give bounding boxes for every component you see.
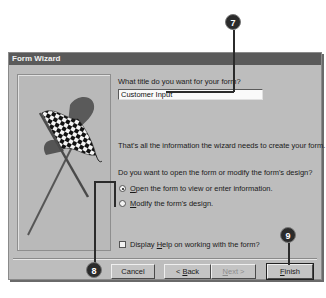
- open-prompt-label: Do you want to open the form or modify t…: [118, 168, 312, 177]
- form-wizard-dialog: Form Wizard What title do you want for y…: [8, 52, 322, 280]
- next-button[interactable]: Next >: [211, 264, 256, 279]
- callout-9-leader: [288, 243, 290, 265]
- finish-button[interactable]: Finish: [267, 264, 313, 279]
- callout-8-bracket: [114, 181, 116, 207]
- title-prompt-label: What title do you want for your form?: [118, 77, 241, 86]
- checkered-flag-icon: [18, 75, 110, 250]
- radio-open-label[interactable]: Open the form to view or enter informati…: [130, 184, 273, 193]
- callout-9-badge: 9: [280, 227, 296, 243]
- callout-8-leader-vertical: [94, 182, 96, 266]
- radio-open[interactable]: [119, 185, 126, 192]
- callout-8-badge: 8: [86, 262, 102, 278]
- radio-modify-label[interactable]: Modify the form's design.: [130, 199, 213, 208]
- callout-7-badge: 7: [225, 14, 241, 30]
- back-button[interactable]: < Back: [164, 264, 211, 279]
- title-bar: Form Wizard: [9, 53, 321, 65]
- callout-8-leader-horizontal: [94, 181, 116, 183]
- help-checkbox[interactable]: [119, 241, 126, 248]
- cancel-button[interactable]: Cancel: [111, 264, 155, 279]
- callout-7-leader-horizontal: [166, 91, 234, 93]
- radio-modify[interactable]: [119, 200, 126, 207]
- button-separator: [13, 258, 317, 260]
- callout-7-leader-vertical: [233, 30, 235, 92]
- info-text: That's all the information the wizard ne…: [118, 141, 325, 150]
- wizard-illustration-panel: [17, 74, 111, 251]
- help-checkbox-label[interactable]: Display Help on working with the form?: [130, 240, 260, 249]
